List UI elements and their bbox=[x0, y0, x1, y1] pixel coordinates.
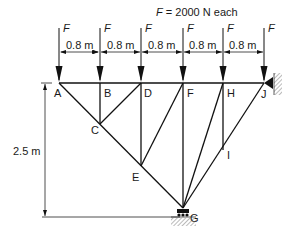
spacing-label-HJ: 0.8 m bbox=[229, 39, 257, 51]
spacing-label-BD: 0.8 m bbox=[107, 39, 135, 51]
load-label-F: F bbox=[187, 22, 195, 34]
load-label-A: F bbox=[63, 22, 71, 34]
height-label: 2.5 m bbox=[13, 145, 41, 157]
node-label-B: B bbox=[104, 87, 111, 99]
node-label-J: J bbox=[261, 88, 267, 100]
spacing-label-AB: 0.8 m bbox=[66, 39, 94, 51]
node-label-A: A bbox=[54, 87, 62, 99]
node-label-H: H bbox=[227, 87, 235, 99]
load-label-B: F bbox=[104, 22, 112, 34]
load-label-D: F bbox=[145, 22, 153, 34]
spacing-label-FH: 0.8 m bbox=[189, 39, 217, 51]
spacing-dimensions: 0.8 m 0.8 m 0.8 m 0.8 m 0.8 m bbox=[60, 39, 263, 54]
truss-members bbox=[59, 83, 264, 208]
load-label-H: F bbox=[227, 22, 235, 34]
truss-diagram: F = 2000 N each F F F F F F 0.8 m 0.8 m … bbox=[0, 0, 297, 251]
node-label-I: I bbox=[227, 149, 230, 161]
load-label-J: F bbox=[268, 22, 276, 34]
height-dimension: 2.5 m bbox=[13, 83, 180, 217]
node-label-F: F bbox=[187, 87, 194, 99]
node-label-E: E bbox=[132, 171, 139, 183]
node-label-C: C bbox=[91, 124, 99, 136]
spacing-label-DF: 0.8 m bbox=[148, 39, 176, 51]
node-label-D: D bbox=[144, 87, 152, 99]
load-title: F = 2000 N each bbox=[156, 6, 238, 18]
pin-support-J bbox=[264, 73, 282, 95]
node-labels: A B C D E F G H I J bbox=[54, 87, 267, 224]
